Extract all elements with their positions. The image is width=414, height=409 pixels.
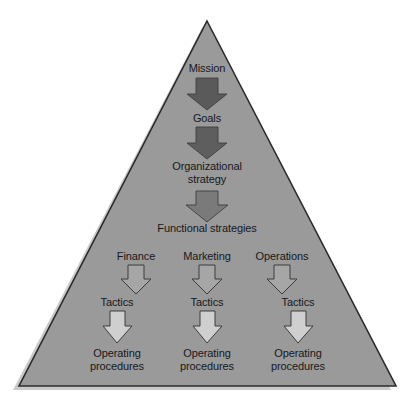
strategy-pyramid-diagram: Mission Goals Organizational strategy Fu… <box>0 0 414 409</box>
pyramid-graphic <box>0 0 414 409</box>
